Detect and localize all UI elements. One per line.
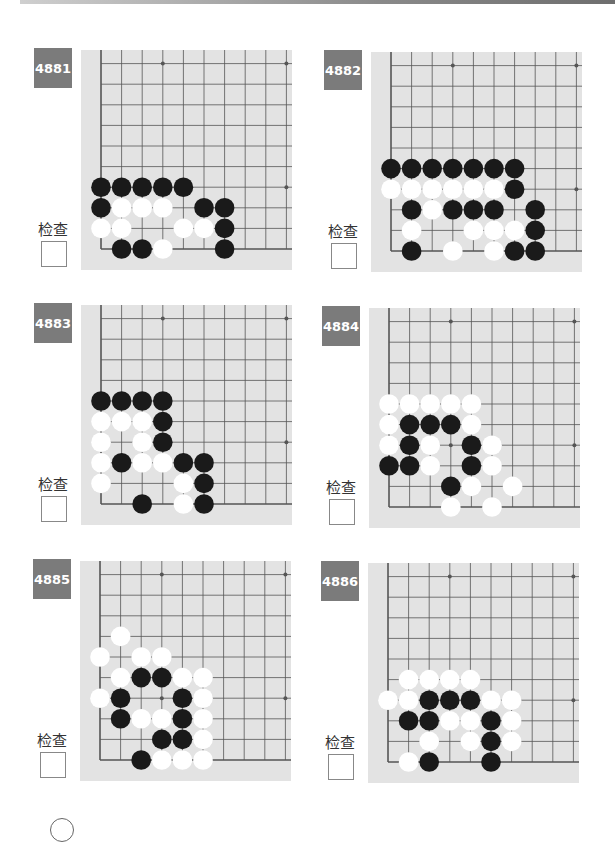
white-stone [464, 221, 484, 241]
white-stone [402, 179, 422, 199]
black-stone [173, 709, 193, 729]
problem-4884: 4884 检查 [322, 306, 612, 536]
check-box[interactable] [331, 243, 357, 269]
white-stone [131, 647, 151, 667]
black-stone [174, 177, 194, 197]
black-stone [152, 730, 172, 750]
black-stone [132, 391, 152, 411]
black-stone [402, 200, 422, 220]
white-stone [461, 670, 481, 690]
go-board[interactable] [369, 308, 580, 528]
white-stone [378, 690, 398, 710]
white-stone [462, 477, 482, 497]
star-point [448, 575, 452, 579]
white-stone [91, 219, 111, 239]
black-stone [481, 732, 501, 752]
black-stone [400, 435, 420, 455]
white-stone [482, 497, 502, 517]
white-stone [112, 412, 132, 432]
white-stone [132, 198, 152, 218]
go-board[interactable] [81, 50, 292, 270]
black-stone [464, 200, 484, 220]
white-stone [422, 200, 442, 220]
black-stone [132, 239, 152, 259]
check-label: 检查 [37, 729, 67, 750]
white-stone [484, 241, 504, 261]
black-stone [111, 688, 131, 708]
black-stone [419, 752, 439, 772]
white-stone [173, 750, 193, 770]
white-stone [174, 474, 194, 494]
check-label: 检查 [326, 476, 356, 497]
star-point [160, 696, 164, 700]
go-board[interactable] [81, 305, 292, 525]
check-box[interactable] [329, 499, 355, 525]
black-stone [422, 159, 442, 179]
black-stone [441, 477, 461, 497]
white-stone [420, 435, 440, 455]
check-label: 检查 [38, 218, 68, 239]
black-stone [91, 391, 111, 411]
white-stone [152, 750, 172, 770]
white-stone [440, 670, 460, 690]
star-point [572, 320, 576, 324]
star-point [571, 698, 575, 702]
black-stone [481, 752, 501, 772]
white-stone [112, 219, 132, 239]
white-stone [193, 688, 213, 708]
black-stone [112, 391, 132, 411]
black-stone [194, 494, 214, 514]
white-stone [132, 453, 152, 473]
problem-4881: 4881 检查 [34, 48, 324, 278]
black-stone [402, 159, 422, 179]
page-top-border [20, 0, 615, 4]
check-box[interactable] [328, 754, 354, 780]
black-stone [525, 221, 545, 241]
white-stone [399, 690, 419, 710]
check-box[interactable] [40, 752, 66, 778]
black-stone [132, 177, 152, 197]
go-board[interactable] [371, 52, 582, 272]
white-stone [443, 241, 463, 261]
white-stone [91, 412, 111, 432]
white-stone [462, 394, 482, 414]
problem-number: 4883 [34, 303, 72, 343]
white-stone [91, 474, 111, 494]
white-stone [379, 415, 399, 435]
white-stone [420, 456, 440, 476]
black-stone [215, 198, 235, 218]
white-stone [441, 497, 461, 517]
white-stone [399, 670, 419, 690]
check-label: 检查 [38, 473, 68, 494]
white-stone [153, 453, 173, 473]
black-stone [152, 668, 172, 688]
star-point [160, 573, 164, 577]
go-board[interactable] [368, 563, 579, 783]
white-stone [91, 432, 111, 452]
black-stone [402, 241, 422, 261]
black-stone [484, 159, 504, 179]
white-stone [420, 394, 440, 414]
check-box[interactable] [41, 241, 67, 267]
black-stone [400, 456, 420, 476]
go-board[interactable] [80, 561, 291, 781]
star-point [451, 64, 455, 68]
star-point [574, 187, 578, 191]
star-point [572, 443, 576, 447]
white-stone [484, 179, 504, 199]
white-stone [132, 432, 152, 452]
problem-4882: 4882 检查 [324, 50, 614, 280]
black-stone [215, 239, 235, 259]
white-stone [461, 711, 481, 731]
white-stone [482, 435, 502, 455]
white-stone [422, 179, 442, 199]
star-point [283, 573, 287, 577]
problem-4883: 4883 检查 [34, 303, 324, 533]
white-stone [379, 435, 399, 455]
problem-number: 4882 [324, 50, 362, 90]
white-stone [419, 670, 439, 690]
black-stone [112, 177, 132, 197]
check-box[interactable] [41, 496, 67, 522]
black-stone [462, 435, 482, 455]
star-point [161, 62, 165, 66]
